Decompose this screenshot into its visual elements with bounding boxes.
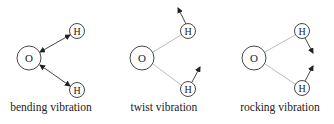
motion-arrow-bottom xyxy=(305,66,313,81)
svg-text:H: H xyxy=(298,26,305,37)
motion-arrow-bottom xyxy=(192,67,200,82)
hydrogen-atom-bottom: H xyxy=(181,82,196,97)
caption-rocking-vibration: rocking vibration xyxy=(240,101,320,114)
svg-text:H: H xyxy=(184,26,191,37)
bond-o-h-top xyxy=(265,35,295,52)
hydrogen-atom-top: H xyxy=(181,24,196,39)
panel-rocking-vibration: O H H rocking vibration xyxy=(240,24,320,115)
hydrogen-atom-top: H xyxy=(295,24,310,39)
bond-o-h-bottom xyxy=(265,64,295,84)
hydrogen-atom-bottom: H xyxy=(295,81,310,96)
caption-bending-vibration: bending vibration xyxy=(10,101,92,114)
svg-text:O: O xyxy=(250,52,258,64)
hydrogen-atom-top: H xyxy=(70,24,85,39)
motion-arrow-top xyxy=(305,38,313,53)
panel-bending-vibration: O H H bending vibration xyxy=(10,24,92,115)
bond-o-h-bottom xyxy=(153,64,181,85)
double-arrow-o-h-top xyxy=(40,35,70,52)
caption-twist-vibration: twist vibration xyxy=(131,101,198,113)
bond-o-h-top xyxy=(153,35,181,52)
hydrogen-atom-bottom: H xyxy=(70,83,85,98)
svg-text:O: O xyxy=(138,52,146,64)
svg-text:H: H xyxy=(184,84,191,95)
svg-text:H: H xyxy=(298,83,305,94)
double-arrow-o-h-bottom xyxy=(40,65,70,86)
svg-text:H: H xyxy=(73,85,80,96)
svg-text:H: H xyxy=(73,26,80,37)
svg-text:O: O xyxy=(25,52,33,64)
motion-arrow-top xyxy=(178,8,186,24)
oxygen-atom: O xyxy=(17,46,41,70)
oxygen-atom: O xyxy=(242,46,266,70)
panel-twist-vibration: O H H twist vibration xyxy=(130,8,200,113)
oxygen-atom: O xyxy=(130,46,154,70)
water-vibration-modes-diagram: O H H bending vibration O H H twist vibr… xyxy=(0,0,334,124)
